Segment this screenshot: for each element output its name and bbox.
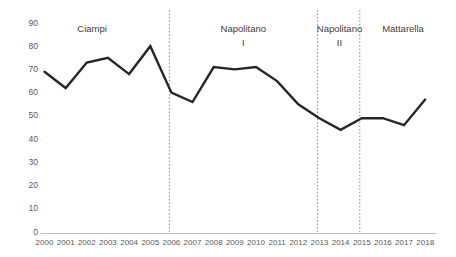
x-tick-label: 2004 [118,239,140,247]
chart-container: 0102030405060708090 20002001200220032004… [0,0,456,257]
y-tick-label: 90 [14,19,38,28]
y-tick-label: 70 [14,65,38,74]
x-tick-label: 2013 [308,239,330,247]
x-tick-label: 2014 [330,239,352,247]
x-tick-label: 2003 [97,239,119,247]
x-tick-label: 2001 [55,239,77,247]
y-tick-label: 10 [14,204,38,213]
y-tick-label: 0 [14,228,38,237]
period-label: Napolitano I [203,22,283,50]
period-label: Ciampi [52,22,132,36]
x-tick-label: 2008 [203,239,225,247]
y-tick-label: 60 [14,88,38,97]
y-tick-label: 80 [14,42,38,51]
x-tick-label: 2000 [34,239,56,247]
x-tick-label: 2012 [287,239,309,247]
y-tick-label: 40 [14,135,38,144]
x-tick-label: 2017 [393,239,415,247]
x-tick-label: 2010 [245,239,267,247]
period-label: Mattarella [363,22,443,36]
x-tick-label: 2002 [76,239,98,247]
y-tick-label: 20 [14,181,38,190]
trend-line [45,46,426,130]
x-tick-label: 2009 [224,239,246,247]
x-tick-label: 2011 [266,239,288,247]
x-tick-label: 2006 [160,239,182,247]
x-tick-label: 2005 [139,239,161,247]
x-tick-label: 2015 [351,239,373,247]
x-tick-label: 2007 [182,239,204,247]
y-tick-label: 50 [14,111,38,120]
y-tick-label: 30 [14,158,38,167]
x-tick-label: 2016 [372,239,394,247]
x-tick-label: 2018 [414,239,436,247]
